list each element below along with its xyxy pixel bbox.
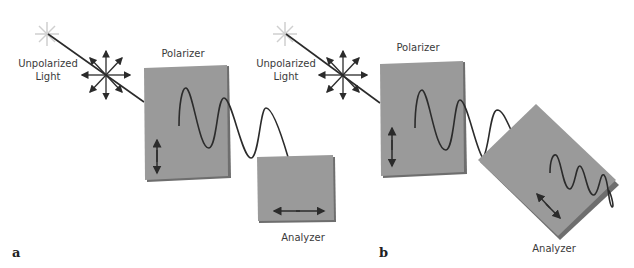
panel-label-a: a: [12, 245, 21, 260]
source-label: Unpolarized: [256, 58, 316, 69]
polarizer-plate: Polarizer: [380, 42, 467, 178]
analyzer-plate: Analyzer: [257, 155, 336, 243]
panel-label-b: b: [379, 245, 388, 260]
light-source-star-icon: [35, 22, 59, 46]
panel-b: Unpolarized Light Polarizer Analyzer b: [256, 22, 619, 260]
analyzer-label: Analyzer: [532, 243, 576, 254]
analyzer-plate: Analyzer: [478, 104, 619, 254]
analyzer-label: Analyzer: [281, 232, 325, 243]
polarizer-label: Polarizer: [396, 42, 440, 53]
polarization-diagram: Unpolarized Light Polarizer Analyzer a: [0, 0, 634, 268]
source-label-line2: Light: [36, 71, 61, 82]
source-label: Unpolarized: [18, 58, 78, 69]
source-label-line2: Light: [274, 71, 299, 82]
light-source-star-icon: [273, 22, 297, 46]
unpolarized-arrows-icon: [319, 51, 367, 99]
unpolarized-arrows-icon: [82, 51, 130, 99]
polarizer-label: Polarizer: [161, 48, 205, 59]
